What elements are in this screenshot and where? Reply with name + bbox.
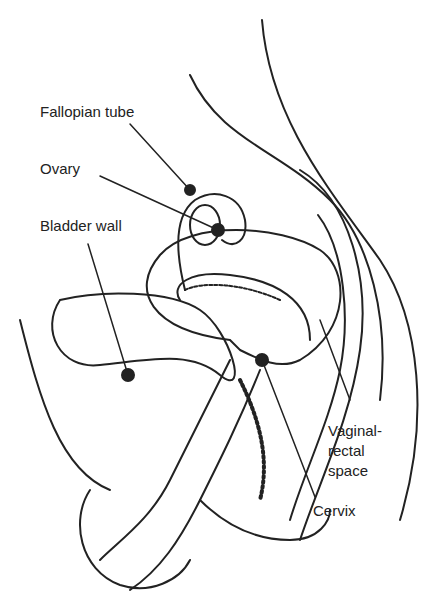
anatomy-drawing — [0, 0, 432, 604]
anatomy-diagram: Fallopian tube Ovary Bladder wall Vagina… — [0, 0, 432, 604]
labia — [80, 490, 190, 588]
vaginal-wall — [130, 370, 260, 590]
sacrum-inner-curve — [190, 75, 383, 400]
leader-cervix — [262, 360, 315, 497]
label-bladder-wall: Bladder wall — [40, 217, 122, 235]
label-fallopian-tube: Fallopian tube — [40, 103, 134, 121]
uterus-body — [147, 230, 341, 364]
label-ovary: Ovary — [40, 160, 80, 178]
leader-fallopian-tube — [130, 124, 190, 190]
label-vaginal-rectal-2: rectal — [328, 442, 365, 460]
leader-bladder-wall — [88, 244, 128, 375]
pubic-curve — [20, 320, 110, 490]
label-vaginal-rectal-3: space — [328, 462, 368, 480]
rectovaginal-tissue — [240, 380, 264, 500]
label-vaginal-rectal-1: Vaginal- — [328, 422, 382, 440]
vaginal-canal — [100, 360, 230, 560]
uterine-lining — [185, 285, 280, 300]
label-cervix: Cervix — [313, 502, 356, 520]
uterine-cavity — [177, 274, 310, 340]
perineum — [200, 500, 330, 540]
